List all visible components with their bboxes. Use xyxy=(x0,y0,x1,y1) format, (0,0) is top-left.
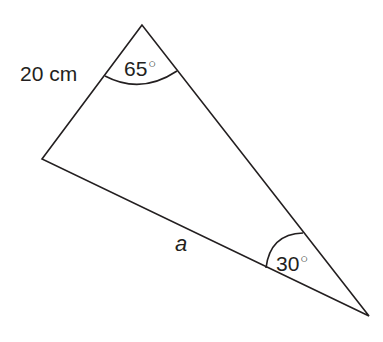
degree-icon: ○ xyxy=(148,56,156,71)
angle-bottom-right-label: 30○ xyxy=(276,252,308,274)
side-a-label: a xyxy=(175,233,187,255)
angle-bottom-right-value: 30 xyxy=(276,252,299,275)
degree-icon: ○ xyxy=(300,251,308,266)
angle-top-label: 65○ xyxy=(124,57,156,79)
triangle-diagram: 20 cm 65○ a 30○ xyxy=(0,0,383,342)
angle-top-value: 65 xyxy=(124,57,147,80)
triangle-figure xyxy=(0,0,383,342)
side-length-text: 20 cm xyxy=(20,62,77,85)
side-a-text: a xyxy=(175,231,187,256)
triangle-outline xyxy=(42,25,369,316)
side-length-label: 20 cm xyxy=(20,63,77,84)
